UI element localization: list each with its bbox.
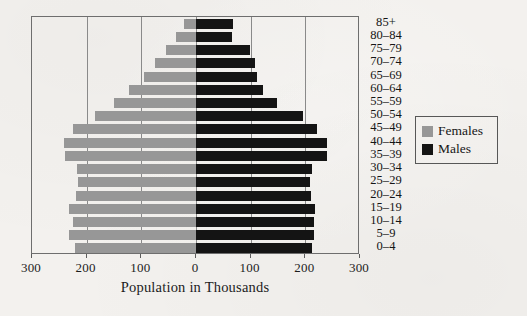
age-label-15-19: 15–19 — [362, 202, 410, 213]
legend-item-females: Females — [422, 122, 497, 140]
bar-row — [32, 32, 358, 42]
bar-row — [32, 19, 358, 29]
legend-label-males: Males — [438, 142, 471, 156]
age-label-85-: 85+ — [362, 17, 410, 28]
tick-mark-5 — [304, 254, 305, 258]
bar-row — [32, 151, 358, 161]
x-axis-title: Population in Thousands — [31, 279, 359, 296]
bar-male-30–34 — [196, 164, 312, 174]
age-label-70-74: 70–74 — [362, 56, 410, 67]
bar-row — [32, 230, 358, 240]
age-label-40-44: 40–44 — [362, 136, 410, 147]
bar-male-50–54 — [196, 111, 303, 121]
bar-male-80–84 — [196, 32, 232, 42]
bar-row — [32, 191, 358, 201]
bar-row — [32, 124, 358, 134]
x-tick-label-3: 0 — [175, 260, 215, 276]
bar-female-65–69 — [144, 72, 196, 82]
bar-row — [32, 98, 358, 108]
bar-female-60–64 — [129, 85, 196, 95]
bar-female-85+ — [184, 19, 196, 29]
bar-row — [32, 45, 358, 55]
bar-row — [32, 58, 358, 68]
x-tick-label-6: 300 — [339, 260, 379, 276]
age-label-0-4: 0–4 — [362, 241, 410, 252]
legend-label-females: Females — [438, 124, 483, 138]
bar-female-15–19 — [69, 204, 196, 214]
population-pyramid-figure: 3002001000100200300 Population in Thousa… — [0, 0, 527, 316]
bar-female-35–39 — [65, 151, 196, 161]
legend-swatch-males — [422, 144, 433, 155]
bar-male-75–79 — [196, 45, 250, 55]
bar-row — [32, 111, 358, 121]
bar-male-20–24 — [196, 191, 311, 201]
bar-female-25–29 — [78, 177, 196, 187]
bar-row — [32, 138, 358, 148]
age-label-10-14: 10–14 — [362, 215, 410, 226]
tick-mark-6 — [359, 254, 360, 258]
bar-male-55–59 — [196, 98, 277, 108]
x-tick-label-0: 300 — [11, 260, 51, 276]
bar-male-5–9 — [196, 230, 314, 240]
chart-legend: Females Males — [415, 116, 498, 164]
tick-mark-3 — [195, 254, 196, 258]
legend-swatch-females — [422, 126, 433, 137]
bar-male-85+ — [196, 19, 233, 29]
plot-area — [31, 16, 359, 254]
bars-layer — [32, 17, 358, 253]
bar-female-40–44 — [64, 138, 196, 148]
bar-male-45–49 — [196, 124, 317, 134]
age-label-45-49: 45–49 — [362, 122, 410, 133]
bar-female-10–14 — [73, 217, 196, 227]
bar-female-0–4 — [75, 243, 196, 253]
bar-female-20–24 — [76, 191, 196, 201]
age-label-60-64: 60–64 — [362, 83, 410, 94]
bar-row — [32, 217, 358, 227]
bar-male-60–64 — [196, 85, 263, 95]
bar-female-75–79 — [166, 45, 196, 55]
bar-male-25–29 — [196, 177, 310, 187]
bar-row — [32, 177, 358, 187]
tick-mark-4 — [250, 254, 251, 258]
bar-row — [32, 85, 358, 95]
tick-mark-0 — [31, 254, 32, 258]
legend-item-males: Males — [422, 140, 497, 158]
x-tick-label-5: 200 — [284, 260, 324, 276]
age-label-80-84: 80–84 — [362, 30, 410, 41]
bar-male-65–69 — [196, 72, 257, 82]
bar-female-55–59 — [114, 98, 196, 108]
age-label-5-9: 5–9 — [362, 228, 410, 239]
age-label-75-79: 75–79 — [362, 43, 410, 54]
bar-row — [32, 204, 358, 214]
age-label-65-69: 65–69 — [362, 70, 410, 81]
tick-mark-2 — [140, 254, 141, 258]
age-label-25-29: 25–29 — [362, 175, 410, 186]
x-tick-label-4: 100 — [230, 260, 270, 276]
age-label-35-39: 35–39 — [362, 149, 410, 160]
age-label-55-59: 55–59 — [362, 96, 410, 107]
bar-female-45–49 — [73, 124, 196, 134]
bar-row — [32, 72, 358, 82]
bar-female-30–34 — [77, 164, 196, 174]
bar-male-40–44 — [196, 138, 327, 148]
bar-male-15–19 — [196, 204, 315, 214]
age-group-labels: 85+80–8475–7970–7465–6960–6455–5950–5445… — [362, 16, 410, 254]
bar-female-80–84 — [176, 32, 196, 42]
x-tick-label-1: 200 — [66, 260, 106, 276]
bar-male-10–14 — [196, 217, 314, 227]
tick-mark-1 — [86, 254, 87, 258]
age-label-50-54: 50–54 — [362, 109, 410, 120]
bar-male-70–74 — [196, 58, 255, 68]
bar-male-0–4 — [196, 243, 312, 253]
bar-row — [32, 243, 358, 253]
bar-female-70–74 — [155, 58, 196, 68]
bar-female-5–9 — [69, 230, 196, 240]
age-label-30-34: 30–34 — [362, 162, 410, 173]
bar-female-50–54 — [95, 111, 196, 121]
bar-row — [32, 164, 358, 174]
bar-male-35–39 — [196, 151, 327, 161]
x-tick-label-2: 100 — [120, 260, 160, 276]
age-label-20-24: 20–24 — [362, 189, 410, 200]
